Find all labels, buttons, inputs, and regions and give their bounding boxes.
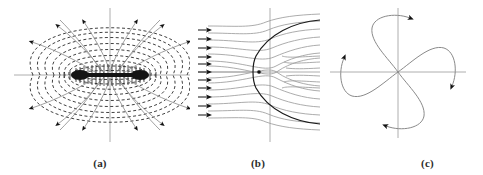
panel-c-label: (c)	[346, 157, 483, 169]
spiral-curve-right	[398, 47, 455, 86]
panel-b-inflow-arrows	[198, 30, 208, 115]
panel-a-dipole-field: (a)	[0, 0, 190, 175]
panel-b-diagram	[190, 0, 320, 150]
spiral-curve-lower	[386, 72, 424, 129]
panel-a-diagram	[0, 0, 190, 150]
panel-c-pinwheel-field: (c)	[320, 0, 483, 175]
panel-c-axes	[330, 8, 466, 138]
panel-b-label: (b)	[193, 157, 323, 169]
panel-b-streamline-flow: (b)	[190, 0, 320, 175]
panel-b-stagnation-point	[257, 70, 261, 74]
spiral-curve-left	[341, 58, 398, 97]
figure-root: (a)	[0, 0, 483, 175]
spiral-curve-upper	[372, 15, 410, 72]
panel-c-diagram	[320, 0, 483, 150]
panel-a-label: (a)	[5, 157, 195, 169]
